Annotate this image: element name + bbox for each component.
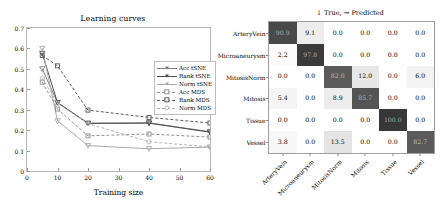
- matrix-row-label: ArteryVein: [233, 29, 266, 36]
- matrix-cell: 0.0: [352, 44, 380, 66]
- y-tick-label: 0.5: [14, 65, 24, 72]
- y-tick-mark: [27, 171, 30, 172]
- legend-item-rank-mds[interactable]: Rank MDS: [157, 96, 212, 104]
- legend-swatch-triangle-down-icon: [157, 72, 177, 80]
- legend-swatch-triangle-down-icon: [157, 80, 177, 88]
- matrix-cell: 0.0: [352, 109, 380, 131]
- matrix-cell: 12.0: [352, 66, 380, 88]
- legend-swatch-triangle-down-icon: [157, 64, 177, 72]
- matrix-cell: 0.0: [297, 66, 325, 88]
- legend-swatch-square-icon: [157, 88, 177, 96]
- matrix-row-tick: [266, 142, 269, 143]
- matrix-row-tick: [266, 77, 269, 78]
- x-axis-label: Training size: [26, 188, 211, 197]
- figure-root: Learning curves 00.10.20.30.40.50.60.7 0…: [0, 0, 446, 207]
- line-plot-area: 00.10.20.30.40.50.60.7 0102030405060 Acc…: [26, 27, 211, 172]
- y-tick-label: 0: [20, 168, 24, 175]
- y-tick-mark: [27, 28, 30, 29]
- y-tick-mark: [27, 69, 30, 70]
- matrix-cell: 5.4: [269, 88, 297, 110]
- matrix-cell: 0.0: [352, 22, 380, 44]
- x-tick-label: 40: [145, 174, 153, 181]
- y-tick-label: 0.6: [14, 45, 24, 52]
- matrix-row-tick: [266, 98, 269, 99]
- matrix-cell: 9.1: [297, 22, 325, 44]
- x-tick-mark: [88, 168, 89, 171]
- legend-label: Acc tSNE: [177, 64, 206, 72]
- matrix-col-tick: [392, 153, 393, 156]
- x-tick-mark: [149, 168, 150, 171]
- matrix-cell: 0.0: [407, 22, 435, 44]
- legend-item-norm-mds[interactable]: Norm MDS: [157, 104, 212, 112]
- y-tick-label: 0.4: [14, 86, 24, 93]
- matrix-cell: 13.5: [324, 131, 352, 153]
- matrix-cell: 100.0: [379, 109, 407, 131]
- x-tick-label: 0: [25, 174, 29, 181]
- x-tick-mark: [180, 168, 181, 171]
- matrix-row-label: Microaneurysm: [218, 51, 266, 58]
- y-tick-label: 0.1: [14, 147, 24, 154]
- matrix-cell: 90.9: [269, 22, 297, 44]
- matrix-col-tick: [420, 153, 421, 156]
- matrix-cell: 0.0: [297, 88, 325, 110]
- chart-title: Learning curves: [0, 14, 226, 23]
- matrix-cell: 0.0: [379, 66, 407, 88]
- matrix-cell: 82.0: [324, 66, 352, 88]
- learning-curves-chart: Learning curves 00.10.20.30.40.50.60.7 0…: [0, 0, 226, 207]
- matrix-cell: 0.0: [269, 66, 297, 88]
- matrix-title: ↓ True, → Predicted: [267, 9, 433, 17]
- matrix-col-tick: [337, 153, 338, 156]
- legend-label: Rank MDS: [177, 96, 210, 104]
- matrix-cell: 0.0: [407, 109, 435, 131]
- legend-item-acc-mds[interactable]: Acc MDS: [157, 88, 212, 96]
- legend-item-rank-tsne[interactable]: Rank tSNE: [157, 72, 212, 80]
- legend-swatch-square-icon: [157, 96, 177, 104]
- matrix-row-label: Mitosis: [243, 95, 265, 102]
- matrix-cell: 0.0: [379, 131, 407, 153]
- y-tick-label: 0.7: [14, 25, 24, 32]
- legend-label: Acc MDS: [177, 88, 205, 96]
- matrix-col-tick: [310, 153, 311, 156]
- y-tick-label: 0.3: [14, 106, 24, 113]
- matrix-cell: 0.0: [324, 109, 352, 131]
- matrix-cell: 0.0: [407, 88, 435, 110]
- y-tick-mark: [27, 48, 30, 49]
- matrix-col-tick: [365, 153, 366, 156]
- matrix-cell: 6.0: [407, 66, 435, 88]
- matrix-cell: 8.9: [324, 88, 352, 110]
- x-tick-mark: [119, 168, 120, 171]
- matrix-cell: 0.0: [324, 44, 352, 66]
- matrix-cell: 0.0: [297, 131, 325, 153]
- matrix-col-tick: [282, 153, 283, 156]
- matrix-cell: 0.0: [379, 44, 407, 66]
- x-tick-mark: [27, 168, 28, 171]
- matrix-cell: 82.7: [407, 131, 435, 153]
- matrix-row-tick: [266, 55, 269, 56]
- legend-item-norm-tsne[interactable]: Norm tSNE: [157, 80, 212, 88]
- legend-label: Norm tSNE: [177, 80, 212, 88]
- matrix-cell: 3.8: [269, 131, 297, 153]
- matrix-cell: 97.8: [297, 44, 325, 66]
- x-tick-label: 20: [84, 174, 92, 181]
- legend-swatch-circle-icon: [157, 104, 177, 112]
- legend-label: Rank tSNE: [177, 72, 211, 80]
- matrix-cell: 0.0: [269, 109, 297, 131]
- matrix-cell: 0.0: [407, 44, 435, 66]
- y-tick-mark: [27, 130, 30, 131]
- confusion-matrix-chart: ↓ True, → Predicted 90.99.10.00.00.00.02…: [226, 0, 446, 207]
- x-tick-label: 50: [176, 174, 184, 181]
- legend-item-acc-tsne[interactable]: Acc tSNE: [157, 64, 212, 72]
- matrix-cell: 2.2: [269, 44, 297, 66]
- matrix-row-label: Vessel: [247, 139, 266, 146]
- legend-label: Norm MDS: [177, 104, 211, 112]
- matrix-cell: 0.0: [297, 109, 325, 131]
- matrix-cell: 0.0: [379, 22, 407, 44]
- y-tick-mark: [27, 110, 30, 111]
- matrix-row-label: Tissue: [246, 117, 266, 124]
- x-tick-mark: [58, 168, 59, 171]
- matrix-row-label: MitosisNorm: [226, 73, 266, 80]
- matrix-cell: 85.7: [352, 88, 380, 110]
- matrix-cell: 0.0: [352, 131, 380, 153]
- matrix-row-tick: [266, 120, 269, 121]
- chart-legend: Acc tSNERank tSNENorm tSNEAcc MDSRank MD…: [154, 61, 216, 115]
